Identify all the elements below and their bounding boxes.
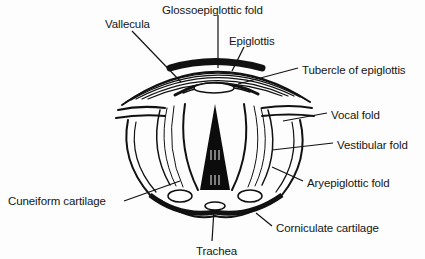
larynx-illustration xyxy=(0,0,425,259)
label-trachea: Trachea xyxy=(196,245,237,257)
label-vallecula: Vallecula xyxy=(105,18,150,30)
label-tubercle-of-epiglottis: Tubercle of epiglottis xyxy=(302,64,406,76)
label-corniculate-cartilage: Corniculate cartilage xyxy=(276,222,379,234)
label-vestibular-fold: Vestibular fold xyxy=(337,139,408,151)
label-aryepiglottic-fold: Aryepiglottic fold xyxy=(307,177,390,189)
label-epiglottis: Epiglottis xyxy=(229,35,275,47)
label-vocal-fold: Vocal fold xyxy=(331,109,380,121)
larynx-diagram: Glossoepiglottic fold Vallecula Epiglott… xyxy=(0,0,425,259)
label-glossoepiglottic-fold: Glossoepiglottic fold xyxy=(162,4,263,16)
label-cuneiform-cartilage: Cuneiform cartilage xyxy=(8,195,106,207)
